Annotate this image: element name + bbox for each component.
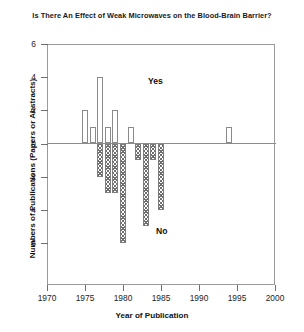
x-axis-title: Year of Publication (0, 311, 304, 320)
bar-yes-1979 (112, 110, 118, 143)
bar-no-1984 (150, 144, 156, 161)
y-axis-tick (41, 243, 48, 244)
bar-yes-1978 (105, 127, 111, 144)
y-axis-tick (41, 77, 48, 78)
chart-title: Is There An Effect of Weak Microwaves on… (0, 11, 304, 20)
bar-yes-1977 (97, 77, 103, 143)
x-axis-tick-label: 1980 (103, 293, 143, 303)
x-axis-tick (237, 285, 238, 291)
bar-no-1977 (97, 144, 103, 177)
annotation-yes: Yes (148, 76, 163, 86)
bar-yes-1976 (90, 127, 96, 144)
x-axis-tick-label: 2000 (255, 293, 295, 303)
bar-no-1978 (105, 144, 111, 194)
annotation-no: No (156, 226, 167, 236)
x-axis-tick-label: 1985 (141, 293, 181, 303)
y-axis-tick (41, 110, 48, 111)
x-axis-tick (85, 285, 86, 291)
bar-yes-1994 (226, 127, 232, 144)
bar-no-1980 (120, 144, 126, 243)
x-axis-tick (199, 285, 200, 291)
x-axis-tick (123, 285, 124, 291)
bar-yes-1981 (128, 127, 134, 144)
x-axis-tick-label: 1970 (27, 293, 67, 303)
y-axis-tick (41, 144, 48, 145)
x-axis-tick (275, 285, 276, 291)
bar-no-1983 (143, 144, 149, 227)
x-axis-tick-label: 1995 (217, 293, 257, 303)
bar-no-1982 (135, 144, 141, 161)
y-axis-title: Numbers of Publications (Papers or Abstr… (28, 54, 37, 284)
x-axis-tick-label: 1975 (65, 293, 105, 303)
bar-no-1979 (112, 144, 118, 194)
x-axis-tick (161, 285, 162, 291)
chart-figure: Is There An Effect of Weak Microwaves on… (0, 0, 304, 332)
y-axis-tick (41, 210, 48, 211)
y-axis-tick (41, 177, 48, 178)
bar-no-1985 (158, 144, 164, 210)
x-axis-tick (47, 285, 48, 291)
y-axis-tick (41, 44, 48, 45)
y-axis-tick-label: 6 (0, 39, 36, 49)
x-axis-tick-label: 1990 (179, 293, 219, 303)
bar-yes-1975 (82, 110, 88, 143)
